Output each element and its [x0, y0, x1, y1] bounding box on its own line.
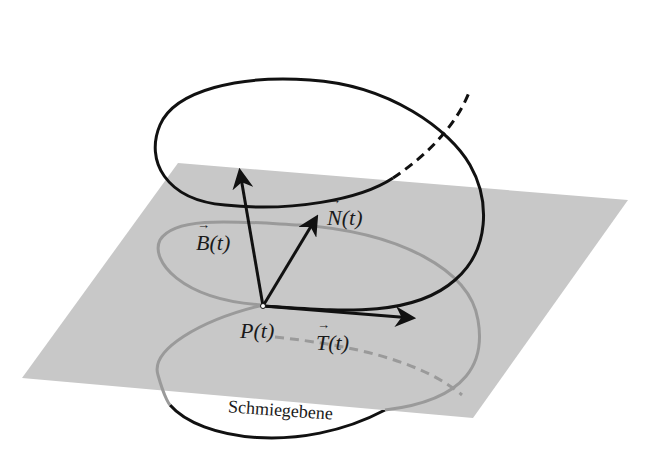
tangent-symbol: T: [316, 330, 328, 356]
tangent-arg: (t): [328, 330, 349, 355]
helix-upper-loop-dashed: [393, 90, 470, 178]
diagram-canvas: [0, 0, 655, 473]
tangent-label: T(t): [316, 330, 349, 356]
binormal-label: B(t): [196, 230, 230, 256]
frenet-frame-diagram: B(t) N(t) P(t) T(t) Schmiegebene: [0, 0, 655, 473]
normal-arg: (t): [342, 205, 363, 230]
binormal-symbol: B: [196, 230, 209, 256]
binormal-arg: (t): [209, 230, 230, 255]
point-label: P(t): [240, 318, 274, 344]
normal-symbol: N: [327, 205, 342, 231]
normal-label: N(t): [327, 205, 362, 231]
point-marker: [261, 304, 266, 309]
